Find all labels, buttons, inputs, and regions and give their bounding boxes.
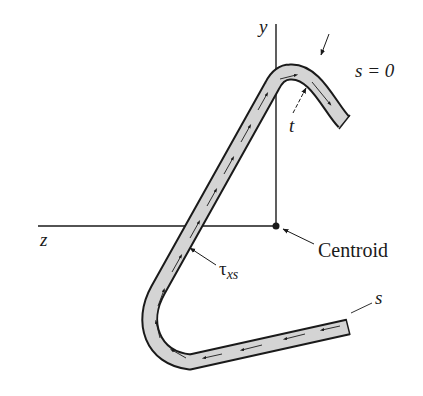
shear-stress-label: τxs: [219, 258, 238, 280]
thin-walled-section: [150, 72, 350, 362]
thickness-arrow-outer: [321, 34, 329, 55]
centroid-label: Centroid: [318, 239, 388, 262]
shear-stress-symbol: τ: [219, 258, 227, 279]
centroid-leader: [283, 229, 314, 244]
thickness-arrow-inner: [293, 88, 306, 113]
s-leader: [351, 303, 372, 313]
z-axis-label: z: [40, 229, 47, 251]
thickness-label: t: [289, 115, 294, 137]
shear-stress-leader: [190, 248, 216, 265]
centroid-point: [273, 223, 280, 230]
y-axis-label: y: [259, 16, 267, 38]
shear-stress-subscript: xs: [227, 267, 239, 282]
s-coordinate-label: s: [375, 287, 382, 309]
s-start-label: s = 0: [355, 60, 394, 82]
